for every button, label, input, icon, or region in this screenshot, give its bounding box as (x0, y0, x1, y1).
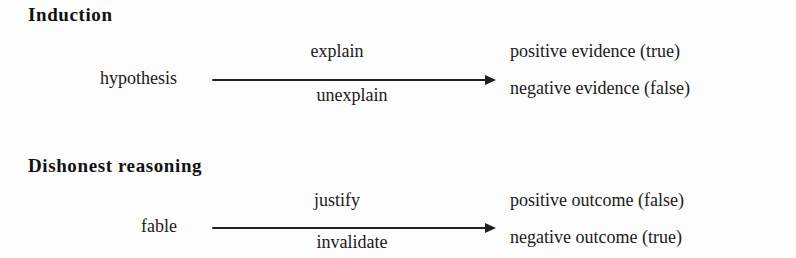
edge-label-unexplain: unexplain (317, 85, 388, 106)
target-label-positive-evidence: positive evidence (true) (510, 41, 680, 62)
section-heading-induction: Induction (28, 4, 113, 26)
source-label-fable: fable (61, 216, 177, 237)
arrow-head-icon (485, 75, 496, 85)
arrow-head-icon (485, 223, 496, 233)
figure-canvas: Induction hypothesis explain unexplain p… (0, 0, 796, 258)
target-label-negative-evidence: negative evidence (false) (510, 78, 690, 99)
edge-label-invalidate: invalidate (317, 232, 388, 253)
source-label-hypothesis: hypothesis (61, 68, 177, 89)
arrow-line (212, 227, 486, 229)
section-heading-dishonest-reasoning: Dishonest reasoning (28, 155, 202, 177)
edge-label-explain: explain (311, 41, 364, 62)
target-label-negative-outcome: negative outcome (true) (510, 227, 682, 248)
target-label-positive-outcome: positive outcome (false) (510, 190, 684, 211)
arrow-line (212, 79, 486, 81)
edge-label-justify: justify (314, 190, 360, 211)
